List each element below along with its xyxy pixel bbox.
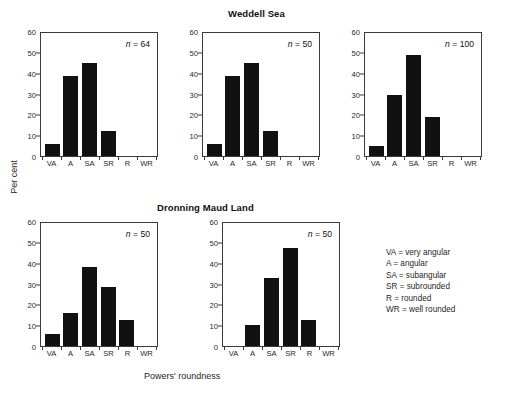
x-tick-mark	[242, 157, 243, 160]
legend-entry: SA = subangular	[386, 270, 455, 281]
bar-slot	[225, 223, 244, 346]
x-tick-label: SA	[80, 349, 99, 358]
bar-a	[63, 313, 78, 346]
x-tick-mark	[480, 157, 481, 160]
bar-va	[207, 144, 222, 157]
y-tick-label: 40	[28, 69, 36, 78]
bar-slot	[244, 223, 263, 346]
y-axis-dronning-1: 0102030405060	[14, 222, 40, 347]
x-tick-label: WR	[137, 349, 156, 358]
x-tick-label: VA	[42, 159, 61, 168]
y-tick-label: 0	[214, 343, 218, 352]
x-tick-label: WR	[319, 349, 338, 358]
x-tick-mark	[423, 157, 424, 160]
x-tick-mark	[404, 157, 405, 160]
bar-slot	[136, 33, 155, 156]
y-axis-dronning-2: 0102030405060	[196, 222, 222, 347]
y-tick-label: 10	[190, 132, 198, 141]
x-tick-mark	[99, 157, 100, 160]
y-tick-label: 20	[190, 111, 198, 120]
x-tick-label: R	[280, 159, 299, 168]
x-axis-weddell-3: VAASASRRWR	[364, 159, 482, 168]
plot-area-dronning-2: n = 50	[222, 222, 340, 347]
x-tick-label: WR	[461, 159, 480, 168]
y-tick-label: 20	[28, 301, 36, 310]
bar-a	[387, 95, 402, 156]
bar-va	[369, 146, 384, 156]
bar-r	[301, 320, 316, 346]
x-tick-mark	[281, 347, 282, 350]
bar-slot	[262, 223, 281, 346]
y-tick-label: 40	[352, 69, 360, 78]
bar-sr	[101, 131, 116, 156]
bar-sr	[263, 131, 278, 156]
y-tick-label: 20	[210, 301, 218, 310]
bar-sa	[82, 267, 97, 346]
x-tick-label: R	[300, 349, 319, 358]
y-tick-label: 10	[28, 322, 36, 331]
y-tick-label: 0	[356, 153, 360, 162]
y-tick-label: 10	[210, 322, 218, 331]
x-axis-weddell-1: VAASASRRWR	[40, 159, 158, 168]
y-axis-weddell-1: 0102030405060	[14, 32, 40, 157]
bar-a	[225, 76, 240, 156]
y-axis-caption: Per cent	[9, 147, 19, 207]
x-axis-dronning-1: VAASASRRWR	[40, 349, 158, 358]
x-tick-mark	[223, 157, 224, 160]
x-tick-label: R	[118, 159, 137, 168]
y-tick-label: 60	[190, 28, 198, 37]
bar-sr	[425, 117, 440, 156]
y-tick-label: 0	[32, 153, 36, 162]
y-tick-label: 40	[210, 259, 218, 268]
y-tick-label: 50	[28, 238, 36, 247]
bar-va	[45, 334, 60, 347]
x-tick-mark	[319, 347, 320, 350]
y-axis-weddell-2: 0102030405060	[176, 32, 202, 157]
bar-slot	[300, 223, 319, 346]
chart-panel-weddell-3: 0102030405060 n = 100 VAASASRRWR	[338, 24, 488, 170]
bar-va	[45, 144, 60, 157]
y-tick-label: 60	[352, 28, 360, 37]
x-tick-label: SA	[262, 349, 281, 358]
bar-slot	[386, 33, 405, 156]
y-tick-label: 40	[28, 259, 36, 268]
x-tick-label: VA	[42, 349, 61, 358]
bar-slot	[62, 33, 81, 156]
x-tick-mark	[80, 157, 81, 160]
plot-area-weddell-1: n = 64	[40, 32, 158, 157]
chart-panel-dronning-1: 0102030405060 n = 50 VAASASRRWR	[14, 214, 164, 360]
bar-sr	[283, 248, 298, 346]
x-tick-mark	[262, 347, 263, 350]
x-tick-mark	[300, 347, 301, 350]
legend-entry: WR = well rounded	[386, 304, 455, 315]
x-tick-label: VA	[224, 349, 243, 358]
bar-slot	[62, 223, 81, 346]
x-tick-mark	[118, 157, 119, 160]
y-tick-label: 60	[28, 28, 36, 37]
bar-slot	[80, 33, 99, 156]
x-tick-mark	[366, 157, 367, 160]
bar-slot	[136, 223, 155, 346]
x-tick-label: WR	[137, 159, 156, 168]
legend-entry: A = angular	[386, 258, 455, 269]
group-title-weddell: Weddell Sea	[228, 8, 285, 19]
y-tick-label: 30	[28, 90, 36, 99]
x-tick-mark	[204, 157, 205, 160]
bar-slot	[99, 223, 118, 346]
y-axis-weddell-3: 0102030405060	[338, 32, 364, 157]
x-tick-mark	[261, 157, 262, 160]
y-tick-label: 0	[32, 343, 36, 352]
x-tick-label: A	[61, 159, 80, 168]
chart-panel-dronning-2: 0102030405060 n = 50 VAASASRRWR	[196, 214, 346, 360]
bar-slot	[43, 33, 62, 156]
bar-group-dronning-1	[41, 223, 157, 346]
x-tick-label: WR	[299, 159, 318, 168]
bar-slot	[261, 33, 280, 156]
bar-group-weddell-3	[365, 33, 481, 156]
x-tick-mark	[461, 157, 462, 160]
bar-sr	[101, 287, 116, 346]
x-tick-mark	[99, 347, 100, 350]
x-tick-label: VA	[204, 159, 223, 168]
y-tick-label: 20	[352, 111, 360, 120]
bar-a	[245, 325, 260, 346]
